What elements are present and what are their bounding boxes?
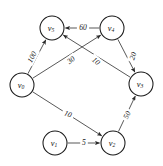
edge-weight-v2-to-v3: 50 — [120, 108, 134, 123]
edge-weight-v0-to-v4: 30 — [63, 53, 78, 68]
graph-figure: v0v1v2v3v4v5 1003010602010505 — [0, 0, 163, 166]
node-subscript-v0: 0 — [21, 84, 24, 90]
edge-weight-v1-to-v2: 5 — [80, 137, 88, 146]
edge-weight-v4-to-v5: 60 — [77, 22, 89, 31]
edge-weight-v3-to-v5: 10 — [88, 54, 103, 69]
edges-layer — [28, 28, 135, 143]
node-v3[interactable]: v3 — [129, 72, 153, 96]
edge-weight-v4-to-v3: 20 — [127, 49, 140, 64]
node-subscript-v3: 3 — [139, 83, 143, 89]
node-subscript-v1: 1 — [54, 142, 57, 148]
graph-canvas: v0v1v2v3v4v5 1003010602010505 — [0, 0, 163, 166]
weight-label-text: 60 — [79, 23, 87, 32]
node-v5[interactable]: v5 — [40, 16, 64, 40]
node-subscript-v2: 2 — [112, 142, 115, 148]
node-subscript-v5: 5 — [51, 27, 54, 33]
edge-weight-v0-to-v2: 10 — [61, 107, 76, 120]
weights-layer: 1003010602010505 — [24, 22, 139, 146]
nodes-layer: v0v1v2v3v4v5 — [10, 16, 153, 155]
node-subscript-v4: 4 — [111, 27, 114, 33]
edge-weight-v0-to-v5: 100 — [24, 47, 40, 66]
node-v4[interactable]: v4 — [100, 16, 124, 40]
node-v0[interactable]: v0 — [10, 73, 34, 97]
node-v2[interactable]: v2 — [101, 131, 125, 155]
weight-label-text: 5 — [82, 138, 86, 147]
node-v1[interactable]: v1 — [43, 131, 67, 155]
